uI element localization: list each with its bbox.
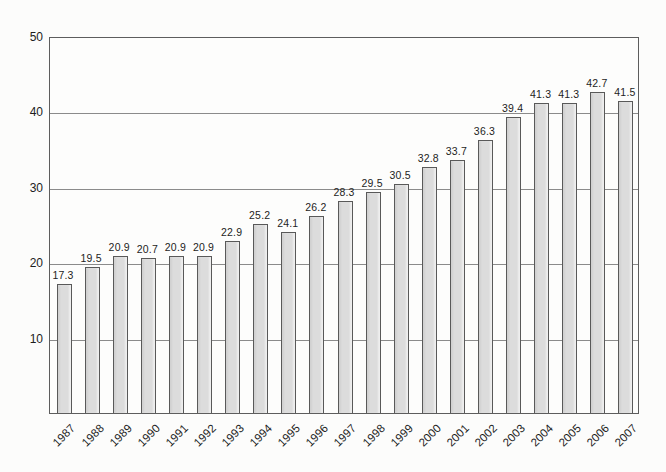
bar-2000 [422,167,437,413]
bar-2002 [478,140,493,413]
bar-1995 [281,232,296,413]
bar-value-label-1999: 30.5 [378,169,422,181]
bar-2006 [590,92,605,413]
bar-1999 [394,184,409,413]
bar-1991 [169,256,184,413]
y-tick-label-50: 50 [13,30,43,44]
bar-value-label-1988: 19.5 [69,252,113,264]
bar-value-label-2001: 33.7 [434,145,478,157]
bar-chart: 1020304050 17.319.520.920.720.920.922.92… [0,0,666,472]
bar-1989 [113,256,128,413]
bar-value-label-1996: 26.2 [294,201,338,213]
bar-1998 [366,192,381,413]
x-tick-label-1998: 1998 [360,422,387,449]
bar-2004 [534,103,549,413]
bar-1988 [85,267,100,413]
x-tick-label-1991: 1991 [163,422,190,449]
bar-2003 [506,117,521,413]
x-tick-label-2003: 2003 [500,422,527,449]
bar-value-label-1993: 22.9 [210,226,254,238]
bar-2007 [618,101,633,413]
x-tick-label-2000: 2000 [416,422,443,449]
y-tick-label-20: 20 [13,256,43,270]
bar-value-label-2003: 39.4 [491,102,535,114]
x-tick-label-1993: 1993 [220,422,247,449]
x-tick-label-1988: 1988 [79,422,106,449]
x-tick-label-1990: 1990 [135,422,162,449]
bar-2001 [450,160,465,413]
bar-value-label-2007: 41.5 [603,86,647,98]
bar-1994 [253,224,268,413]
x-tick-label-2004: 2004 [529,422,556,449]
y-tick-label-40: 40 [13,105,43,119]
x-tick-label-2007: 2007 [613,422,640,449]
x-tick-label-1995: 1995 [276,422,303,449]
x-tick-label-1997: 1997 [332,422,359,449]
bar-1996 [309,216,324,413]
bar-value-label-1995: 24.1 [266,217,310,229]
bar-value-label-1992: 20.9 [182,241,226,253]
y-tick-label-10: 10 [13,332,43,346]
bar-1987 [57,284,72,413]
bar-1992 [197,256,212,413]
x-tick-label-1996: 1996 [304,422,331,449]
y-tick-label-30: 30 [13,181,43,195]
bar-1997 [338,201,353,413]
x-tick-label-2002: 2002 [472,422,499,449]
x-tick-label-1989: 1989 [107,422,134,449]
x-tick-label-2001: 2001 [444,422,471,449]
x-tick-label-2005: 2005 [557,422,584,449]
bar-2005 [562,103,577,413]
x-tick-label-1992: 1992 [191,422,218,449]
bar-value-label-1987: 17.3 [41,269,85,281]
bar-value-label-2005: 41.3 [547,88,591,100]
x-tick-label-1994: 1994 [248,422,275,449]
gridline-40 [50,113,638,114]
x-tick-label-1987: 1987 [51,422,78,449]
bar-1990 [141,258,156,413]
x-tick-label-1999: 1999 [388,422,415,449]
x-tick-label-2006: 2006 [585,422,612,449]
bar-1993 [225,241,240,413]
bar-value-label-2002: 36.3 [462,125,506,137]
